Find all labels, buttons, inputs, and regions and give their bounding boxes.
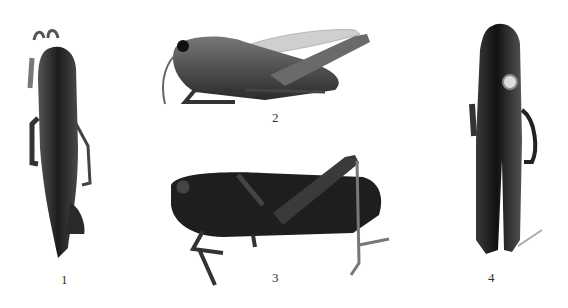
specimen-2-lateral-photo bbox=[155, 20, 380, 112]
specimen-plate: 1 2 3 bbox=[0, 0, 568, 308]
specimen-1-label: 1 bbox=[61, 272, 68, 288]
specimen-4-label: 4 bbox=[488, 270, 495, 286]
specimen-3-label: 3 bbox=[272, 270, 279, 286]
specimen-1-dorsal-photo bbox=[22, 28, 102, 268]
grasshopper-ventral-icon bbox=[462, 20, 547, 260]
specimen-4-ventral-photo bbox=[462, 20, 547, 260]
grasshopper-lateral-icon bbox=[155, 20, 380, 112]
grasshopper-lateral-icon bbox=[163, 145, 398, 290]
specimen-2-label: 2 bbox=[272, 110, 279, 126]
specimen-3-lateral-photo bbox=[163, 145, 398, 290]
grasshopper-dorsal-icon bbox=[22, 28, 102, 268]
